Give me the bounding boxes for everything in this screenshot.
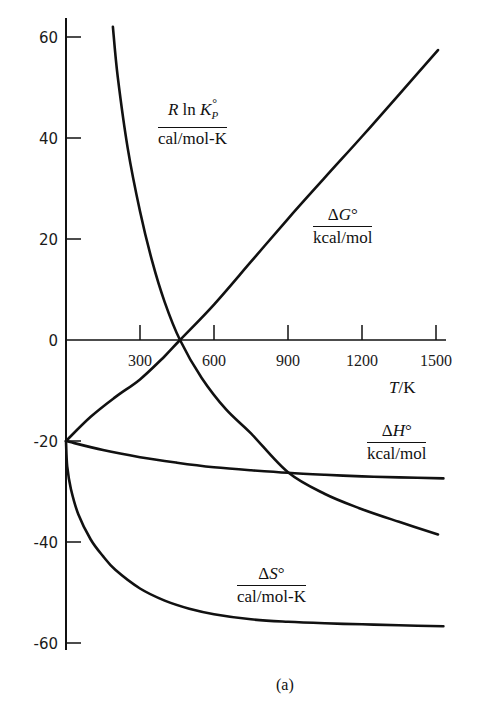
figure-caption: (a)	[276, 676, 294, 694]
x-tick-label: 1500	[420, 352, 452, 369]
curves	[66, 27, 443, 626]
label-delta-h: ΔH° kcal/mol	[367, 421, 426, 463]
x-tick-label: 1200	[346, 352, 378, 369]
y-tick-label: 40	[39, 130, 58, 148]
x-tick-label: 600	[202, 352, 226, 369]
y-tick-label: 20	[39, 231, 58, 249]
label-delta-s: ΔS° cal/mol-K	[237, 564, 306, 606]
x-tick-label: 900	[276, 352, 300, 369]
y-tick-label: 60	[39, 29, 58, 47]
y-tick-label: -40	[34, 534, 59, 552]
label-delta-g: ΔG° kcal/mol	[313, 205, 372, 247]
kp-k: K	[200, 100, 211, 119]
y-tick-label: 0	[48, 332, 58, 350]
x-tick-label: 300	[128, 352, 152, 369]
label-r-ln-kp: R ln KP° cal/mol-K	[158, 94, 227, 148]
x-axis-label: T/K	[389, 378, 415, 398]
y-tick-label: -60	[34, 635, 59, 653]
y-tick-label: -20	[34, 433, 59, 451]
axes: 6040200-20-40-6030060090012001500	[34, 18, 453, 653]
